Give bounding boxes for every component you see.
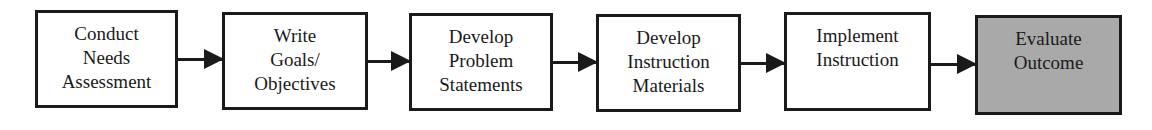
- step-develop-instruction-materials: Develop Instruction Materials: [596, 14, 741, 112]
- step-label-line: Develop: [636, 26, 700, 50]
- step-label-line: Objectives: [254, 72, 335, 96]
- step-label-line: Statements: [439, 73, 522, 97]
- step-label-line: Outcome: [1014, 51, 1084, 75]
- step-label-line: Conduct: [74, 22, 138, 46]
- step-label-line: Materials: [633, 74, 705, 98]
- step-conduct-needs-assessment: Conduct Needs Assessment: [35, 10, 178, 108]
- step-label-line: Problem: [449, 49, 513, 73]
- step-label-line: Instruction: [816, 48, 898, 72]
- step-write-goals-objectives: Write Goals/ Objectives: [222, 12, 368, 110]
- step-label-line: Implement: [816, 24, 898, 48]
- arrow-1-to-2: [178, 58, 222, 61]
- step-implement-instruction: Implement Instruction: [784, 12, 931, 111]
- step-develop-problem-statements: Develop Problem Statements: [409, 13, 553, 111]
- step-evaluate-outcome: Evaluate Outcome: [975, 15, 1122, 115]
- step-label-line: Goals/: [270, 48, 320, 72]
- step-label-line: Instruction: [627, 50, 709, 74]
- arrow-5-to-6: [931, 63, 975, 66]
- step-label-line: Write: [274, 24, 317, 48]
- step-label-line: Assessment: [62, 70, 152, 94]
- arrow-4-to-5: [741, 62, 784, 65]
- arrow-2-to-3: [368, 60, 409, 63]
- step-label-line: Develop: [449, 25, 513, 49]
- step-label-line: Evaluate: [1015, 27, 1081, 51]
- arrow-3-to-4: [553, 61, 596, 64]
- step-label-line: Needs: [83, 46, 130, 70]
